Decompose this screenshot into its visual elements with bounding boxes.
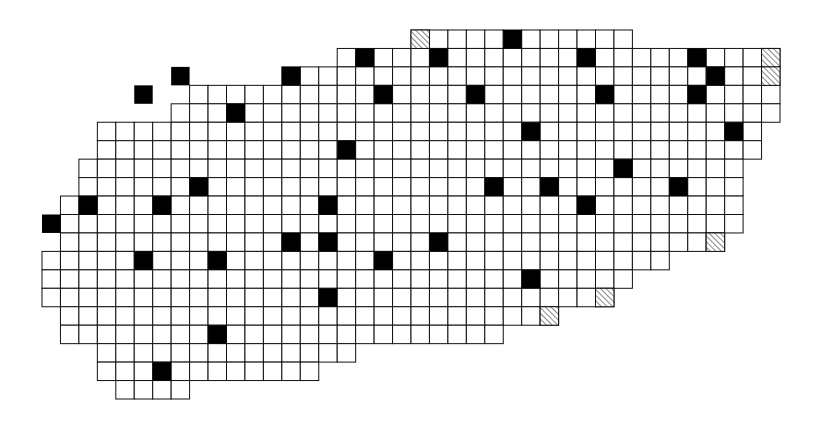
- grid-cell: [429, 67, 447, 85]
- grid-cell: [596, 48, 614, 66]
- grid-cell: [614, 233, 632, 251]
- grid-cell: [725, 215, 743, 233]
- grid-cell: [411, 196, 429, 214]
- grid-cell: [466, 307, 484, 325]
- grid-cell: [116, 270, 134, 288]
- grid-cell: [429, 288, 447, 306]
- grid-cell: [319, 251, 337, 269]
- grid-cell: [559, 48, 577, 66]
- grid-cell: [577, 178, 595, 196]
- grid-cell: [171, 362, 189, 380]
- grid-cell: [596, 122, 614, 140]
- grid-cell: [319, 141, 337, 159]
- grid-cell: [503, 85, 521, 103]
- grid-cell: [503, 141, 521, 159]
- grid-cell: [300, 159, 318, 177]
- grid-cell: [632, 141, 650, 159]
- filled-cell: [614, 159, 632, 177]
- grid-cell: [134, 344, 152, 362]
- grid-cell: [632, 215, 650, 233]
- grid-cell: [448, 270, 466, 288]
- grid-cell: [393, 196, 411, 214]
- grid-cell: [300, 67, 318, 85]
- grid-cell: [208, 85, 226, 103]
- grid-cell: [356, 104, 374, 122]
- grid-cell: [577, 30, 595, 48]
- grid-cell: [485, 141, 503, 159]
- grid-cell: [263, 196, 281, 214]
- grid-cell: [245, 307, 263, 325]
- grid-cell: [263, 325, 281, 343]
- filled-cell: [688, 85, 706, 103]
- grid-cell: [448, 233, 466, 251]
- grid-cell: [319, 344, 337, 362]
- grid-cell: [153, 344, 171, 362]
- grid-cell: [356, 159, 374, 177]
- grid-cell: [393, 288, 411, 306]
- hatched-cell: [762, 48, 780, 66]
- grid-cell: [337, 288, 355, 306]
- grid-cell: [79, 178, 97, 196]
- grid-cell: [614, 48, 632, 66]
- grid-cell: [559, 251, 577, 269]
- grid-cell: [300, 251, 318, 269]
- grid-cell: [134, 215, 152, 233]
- grid-cell: [411, 122, 429, 140]
- filled-cell: [429, 48, 447, 66]
- grid-cell: [596, 159, 614, 177]
- grid-cell: [337, 85, 355, 103]
- grid-cell: [577, 233, 595, 251]
- grid-cell: [171, 141, 189, 159]
- grid-cell: [245, 104, 263, 122]
- grid-cell: [227, 233, 245, 251]
- grid-cell: [190, 362, 208, 380]
- grid-cell: [688, 122, 706, 140]
- grid-cell: [411, 104, 429, 122]
- grid-cell: [300, 344, 318, 362]
- grid-cell: [522, 159, 540, 177]
- grid-cell: [706, 141, 724, 159]
- grid-cell: [374, 288, 392, 306]
- grid-cell: [522, 215, 540, 233]
- grid-cell: [337, 196, 355, 214]
- grid-cell: [614, 251, 632, 269]
- grid-cell: [411, 251, 429, 269]
- grid-cell: [319, 178, 337, 196]
- grid-cell: [153, 178, 171, 196]
- grid-cell: [171, 381, 189, 399]
- filled-cell: [134, 251, 152, 269]
- grid-cell: [596, 251, 614, 269]
- filled-cell: [429, 233, 447, 251]
- grid-cell: [263, 159, 281, 177]
- grid-cell: [97, 122, 115, 140]
- grid-cell: [411, 325, 429, 343]
- grid-cell: [374, 270, 392, 288]
- grid-cell: [743, 67, 761, 85]
- grid-cell: [411, 270, 429, 288]
- grid-cell: [706, 122, 724, 140]
- grid-cell: [448, 178, 466, 196]
- grid-cell: [374, 215, 392, 233]
- grid-cell: [632, 104, 650, 122]
- grid-cell: [245, 122, 263, 140]
- grid-cell: [190, 104, 208, 122]
- grid-cell: [429, 141, 447, 159]
- grid-cell: [706, 159, 724, 177]
- grid-cell: [540, 233, 558, 251]
- filled-cell: [577, 196, 595, 214]
- grid-cell: [522, 307, 540, 325]
- grid-cell: [614, 141, 632, 159]
- grid-cell: [245, 159, 263, 177]
- grid-cell: [134, 233, 152, 251]
- grid-cell: [190, 270, 208, 288]
- grid-cell: [411, 85, 429, 103]
- grid-cell: [227, 288, 245, 306]
- grid-cell: [190, 196, 208, 214]
- grid-cell: [596, 67, 614, 85]
- grid-cell: [282, 325, 300, 343]
- grid-cell: [614, 122, 632, 140]
- filled-cell: [227, 104, 245, 122]
- grid-cell: [319, 325, 337, 343]
- grid-cell: [651, 67, 669, 85]
- grid-cell: [319, 270, 337, 288]
